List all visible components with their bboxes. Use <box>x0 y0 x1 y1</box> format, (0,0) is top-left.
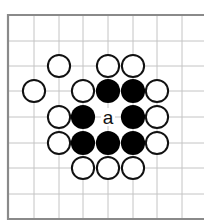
black-stone <box>121 131 145 155</box>
white-stone <box>146 80 168 102</box>
white-stone <box>122 157 144 179</box>
point-label: a <box>103 107 114 128</box>
black-stone <box>96 79 120 103</box>
white-stone <box>97 55 119 77</box>
point-labels: a <box>101 107 115 128</box>
white-stone <box>48 132 70 154</box>
white-stone <box>97 157 119 179</box>
go-board: a <box>0 0 204 222</box>
white-stone <box>48 106 70 128</box>
white-stone <box>146 132 168 154</box>
white-stone <box>72 80 94 102</box>
white-stone <box>48 55 70 77</box>
black-stone <box>121 79 145 103</box>
black-stone <box>71 105 95 129</box>
white-stone <box>146 106 168 128</box>
black-stone <box>96 131 120 155</box>
black-stone <box>121 105 145 129</box>
white-stone <box>23 80 45 102</box>
white-stone <box>72 157 94 179</box>
white-stone <box>122 55 144 77</box>
black-stone <box>71 131 95 155</box>
